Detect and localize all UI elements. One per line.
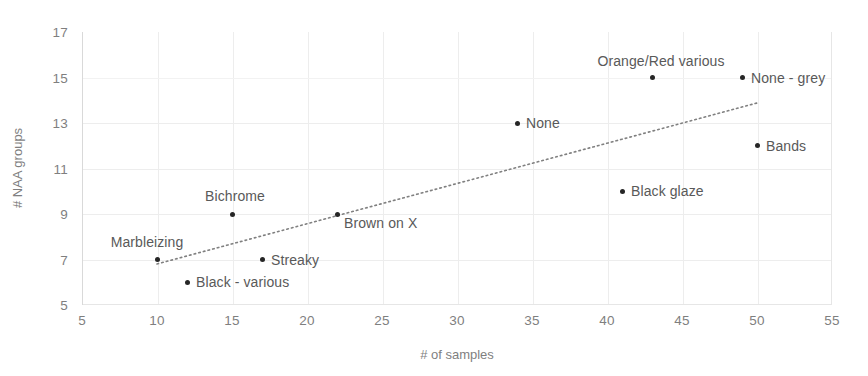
- y-tick-11: 11: [44, 161, 68, 176]
- x-tick-5: 5: [78, 313, 86, 328]
- gridline-horizontal: [83, 214, 831, 215]
- data-point-bichrome[interactable]: [230, 212, 235, 217]
- data-label-bichrome: Bichrome: [205, 188, 265, 204]
- plot-area: [82, 32, 832, 305]
- x-tick-30: 30: [449, 313, 464, 328]
- x-tick-55: 55: [824, 313, 839, 328]
- y-tick-15: 15: [44, 70, 68, 85]
- gridline-horizontal: [83, 169, 831, 170]
- x-tick-10: 10: [149, 313, 164, 328]
- data-point-marbleizing[interactable]: [155, 257, 160, 262]
- x-tick-45: 45: [674, 313, 689, 328]
- y-axis-line: [82, 32, 83, 305]
- x-tick-50: 50: [749, 313, 764, 328]
- data-label-none-grey: None - grey: [751, 70, 825, 86]
- data-label-bands: Bands: [766, 138, 806, 154]
- gridline-horizontal: [83, 260, 831, 261]
- x-tick-25: 25: [374, 313, 389, 328]
- data-point-none[interactable]: [515, 121, 520, 126]
- data-point-streaky[interactable]: [260, 257, 265, 262]
- y-tick-5: 5: [44, 298, 68, 313]
- y-axis-title: # NAA groups: [10, 128, 25, 208]
- gridline-horizontal: [83, 123, 831, 124]
- y-tick-7: 7: [44, 252, 68, 267]
- data-label-brown-on-x: Brown on X: [344, 215, 417, 231]
- data-point-orange-red-various[interactable]: [650, 75, 655, 80]
- data-label-black-glaze: Black glaze: [631, 183, 704, 199]
- data-label-orange-red-various: Orange/Red various: [597, 53, 724, 69]
- y-tick-17: 17: [44, 25, 68, 40]
- x-tick-40: 40: [599, 313, 614, 328]
- data-point-bands[interactable]: [755, 143, 760, 148]
- data-label-none: None: [526, 115, 560, 131]
- x-axis-title: # of samples: [420, 347, 494, 362]
- scatter-chart: 17 15 13 11 9 7 5 5 10 15 20 25 30 35 40…: [0, 0, 868, 376]
- data-label-black-various: Black - various: [196, 274, 289, 290]
- y-tick-13: 13: [44, 116, 68, 131]
- data-label-marbleizing: Marbleizing: [111, 234, 184, 250]
- data-point-none-grey[interactable]: [740, 75, 745, 80]
- x-tick-20: 20: [299, 313, 314, 328]
- x-tick-15: 15: [224, 313, 239, 328]
- data-point-black-various[interactable]: [185, 280, 190, 285]
- data-point-brown-on-x[interactable]: [335, 212, 340, 217]
- y-tick-9: 9: [44, 207, 68, 222]
- data-point-black-glaze[interactable]: [620, 189, 625, 194]
- gridline-horizontal: [83, 78, 831, 79]
- x-tick-35: 35: [524, 313, 539, 328]
- data-label-streaky: Streaky: [271, 252, 319, 268]
